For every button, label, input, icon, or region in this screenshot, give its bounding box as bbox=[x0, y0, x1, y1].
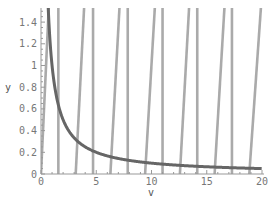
y-tick-label: 0.2 bbox=[19, 147, 37, 158]
y-tick-label: 0 bbox=[31, 169, 37, 180]
x-tick-label: 15 bbox=[201, 176, 213, 187]
y-tick-label: 1.4 bbox=[19, 17, 37, 28]
y-tick-label: 1 bbox=[31, 60, 37, 71]
slanted-curve bbox=[110, 8, 119, 174]
y-tick-label: 0.4 bbox=[19, 125, 37, 136]
chart: 0510152000.20.40.60.811.21.4 v y bbox=[0, 0, 276, 202]
x-tick-label: 20 bbox=[256, 176, 268, 187]
slanted-curve bbox=[180, 8, 189, 174]
x-tick-label: 5 bbox=[93, 176, 99, 187]
y-tick-label: 1.2 bbox=[19, 38, 37, 49]
slanted-curve bbox=[76, 8, 84, 174]
y-tick-label: 0.6 bbox=[19, 103, 37, 114]
x-tick-label: 0 bbox=[38, 176, 44, 187]
slanted-curve bbox=[249, 8, 261, 174]
slanted-curve bbox=[145, 8, 155, 174]
x-axis-label: v bbox=[148, 187, 154, 198]
slanted-curve bbox=[215, 8, 225, 174]
y-axis-label: y bbox=[5, 82, 11, 93]
x-tick-label: 10 bbox=[145, 176, 157, 187]
plot-area bbox=[41, 0, 262, 174]
y-tick-label: 0.8 bbox=[19, 82, 37, 93]
